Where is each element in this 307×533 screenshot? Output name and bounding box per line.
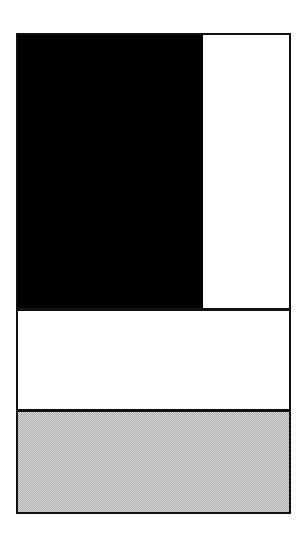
layout-frame [16,33,291,514]
top-right-white-column [203,35,289,308]
bottom-gray-band [18,412,289,512]
middle-white-band [18,311,289,409]
top-left-black-block [18,35,203,308]
